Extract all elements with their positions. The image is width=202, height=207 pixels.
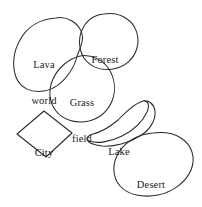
region-label-grass-field-line1: Grass — [60, 97, 104, 109]
region-label-city: City — [23, 123, 65, 183]
region-label-desert-line1: Desert — [128, 179, 174, 191]
region-label-lava-world-line1: Lava — [22, 59, 66, 71]
map-canvas: Lava world Forest Grass field City Lake … — [0, 0, 202, 207]
region-label-city-line1: City — [23, 147, 65, 159]
region-label-forest-line1: Forest — [83, 54, 127, 66]
region-label-desert: Desert — [128, 155, 174, 207]
